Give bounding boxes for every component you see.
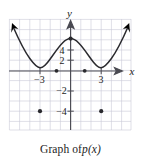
- point-xint-left: [55, 69, 59, 73]
- x-tick-label-neg3: −3: [34, 74, 45, 85]
- coordinate-plane-graphic: y x −3 3 4 2 −2 −4: [0, 0, 141, 136]
- y-tick-label-2: 2: [60, 55, 65, 66]
- y-axis-arrowhead: [67, 21, 74, 29]
- y-tick-label-neg4: −4: [56, 106, 67, 117]
- figure-caption: Graph of p(x): [0, 136, 141, 162]
- y-axis-label: y: [66, 7, 72, 19]
- point-xint-right: [83, 69, 87, 73]
- caption-function-name: p(x): [82, 143, 101, 155]
- caption-prefix: Graph of: [40, 143, 82, 155]
- graph-figure: y x −3 3 4 2 −2 −4: [0, 0, 141, 136]
- figure-panel: y x −3 3 4 2 −2 −4 Graph of p(x): [0, 0, 141, 162]
- x-tick-label-pos3: 3: [98, 74, 103, 85]
- y-tick-label-neg2: −2: [56, 85, 67, 96]
- point-local-max: [69, 37, 73, 41]
- x-axis-label: x: [129, 65, 135, 77]
- point-min-right: [99, 109, 103, 113]
- point-min-left: [38, 109, 42, 113]
